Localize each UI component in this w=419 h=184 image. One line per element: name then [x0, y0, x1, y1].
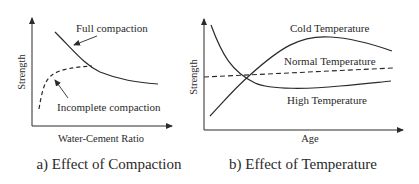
- full-compaction-pointer: [74, 36, 97, 45]
- y-axis-label: Strength: [188, 58, 199, 94]
- full-compaction-label: Full compaction: [76, 22, 148, 34]
- normal-temperature-curve: [204, 68, 393, 77]
- incomplete-compaction-pointer: [55, 80, 68, 98]
- panel-compaction: Full compaction Incomplete compaction St…: [16, 18, 182, 173]
- y-axis-label: Strength: [16, 53, 27, 89]
- panel-temperature: Cold Temperature Normal Temperature High…: [188, 19, 403, 173]
- diagram-canvas: Full compaction Incomplete compaction St…: [0, 0, 419, 184]
- x-axis-label: Water-Cement Ratio: [58, 133, 144, 144]
- high-temperature-label: High Temperature: [287, 94, 367, 106]
- panel-caption: a) Effect of Compaction: [36, 156, 182, 173]
- cold-temperature-label: Cold Temperature: [290, 22, 369, 34]
- incomplete-compaction-label: Incomplete compaction: [57, 101, 161, 113]
- full-compaction-curve: [55, 32, 158, 84]
- x-axis-label: Age: [301, 133, 319, 144]
- panel-caption: b) Effect of Temperature: [229, 156, 377, 173]
- normal-temperature-label: Normal Temperature: [284, 55, 376, 67]
